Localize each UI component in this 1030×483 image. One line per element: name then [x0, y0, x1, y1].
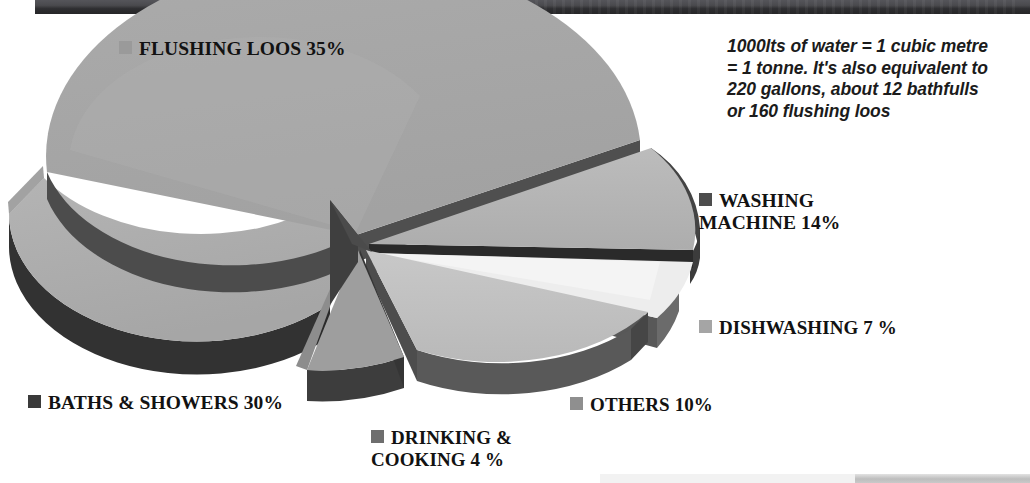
note-line-1: 1000lts of water = 1 cubic metre: [727, 36, 1027, 58]
label-drinking-cooking-text-2: COOKING 4 %: [371, 449, 512, 471]
label-others-text: OTHERS 10%: [590, 394, 713, 415]
swatch-flushing-loos: [119, 41, 132, 54]
note-line-3: 220 gallons, about 12 bathfulls: [727, 79, 1027, 101]
label-baths-showers-text: BATHS & SHOWERS 30%: [48, 392, 283, 413]
swatch-dishwashing: [699, 320, 712, 333]
label-baths-showers: BATHS & SHOWERS 30%: [28, 392, 283, 414]
swatch-drinking-cooking: [371, 430, 384, 443]
swatch-washing-machine: [699, 193, 712, 206]
chart-page: FLUSHING LOOS 35% WASHING MACHINE 14% DI…: [0, 0, 1030, 483]
label-washing-machine-text-2: MACHINE 14%: [699, 212, 840, 234]
label-dishwashing-text: DISHWASHING 7 %: [719, 317, 897, 338]
pie-chart-svg: [0, 0, 760, 430]
label-dishwashing: DISHWASHING 7 %: [699, 317, 897, 339]
note-line-2: = 1 tonne. It's also equivalent to: [727, 58, 1027, 80]
label-flushing-loos-text: FLUSHING LOOS 35%: [139, 38, 346, 59]
pie-chart: [0, 0, 760, 430]
label-washing-machine-text: WASHING: [719, 190, 814, 211]
label-others: OTHERS 10%: [570, 394, 713, 416]
label-flushing-loos: FLUSHING LOOS 35%: [119, 38, 346, 60]
label-washing-machine: WASHING MACHINE 14%: [699, 190, 840, 234]
annotation-note: 1000lts of water = 1 cubic metre = 1 ton…: [727, 36, 1027, 122]
scan-band-bottom: [600, 474, 1030, 483]
swatch-baths-showers: [28, 395, 41, 408]
label-drinking-cooking: DRINKING & COOKING 4 %: [371, 427, 512, 471]
swatch-others: [570, 397, 583, 410]
scan-band-bottom-segment: [855, 474, 1030, 483]
note-line-4: or 160 flushing loos: [727, 101, 1027, 123]
label-drinking-cooking-text: DRINKING &: [391, 427, 512, 448]
